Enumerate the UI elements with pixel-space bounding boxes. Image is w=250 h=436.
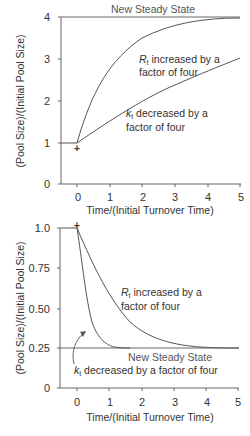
svg-text:0.25: 0.25 (29, 342, 50, 354)
bottom-y-axis-title: (Pool Size)/(Initial Pool Size) (14, 241, 26, 374)
svg-text:1: 1 (44, 137, 50, 149)
svg-text:Rt increased by a: Rt increased by a (121, 286, 202, 299)
top-x-axis-title: Time/(Initial Turnover Time) (86, 204, 213, 216)
svg-text:1: 1 (107, 191, 113, 203)
svg-text:3: 3 (44, 53, 50, 65)
top-y-tick-labels: 4 3 2 1 0 (44, 11, 50, 190)
svg-text:4: 4 (205, 191, 211, 203)
svg-text:1: 1 (107, 396, 113, 408)
bottom-chart-svg: 1.0 0.75 0.50 0.25 0 0 1 2 3 4 5 Time/(I… (0, 218, 250, 436)
top-start-marker: + (74, 143, 80, 154)
top-rt-annotation: Rt increased by a factor of four (139, 53, 220, 78)
top-x-tick-labels: 0 1 2 3 4 5 (75, 191, 244, 203)
top-y-axis-title: (Pool Size)/(Initial Pool Size) (14, 34, 26, 167)
bottom-kt-annotation: kt decreased by a factor of four (74, 364, 218, 377)
bottom-chart: 1.0 0.75 0.50 0.25 0 0 1 2 3 4 5 Time/(I… (0, 218, 250, 436)
svg-text:0: 0 (44, 178, 50, 190)
svg-text:5: 5 (235, 396, 241, 408)
svg-text:2: 2 (44, 95, 50, 107)
svg-text:5: 5 (238, 191, 244, 203)
top-steady-state-label: New Steady State (111, 3, 195, 15)
svg-text:factor of four: factor of four (139, 66, 198, 78)
svg-text:Rt increased by a: Rt increased by a (139, 53, 220, 66)
svg-text:kt decreased by a: kt decreased by a (126, 107, 208, 120)
svg-text:0: 0 (44, 382, 50, 394)
bottom-x-axis-title: Time/(Initial Turnover Time) (86, 411, 213, 423)
svg-text:4: 4 (204, 396, 210, 408)
bottom-y-tick-labels: 1.0 0.75 0.50 0.25 0 (29, 222, 50, 394)
top-kt-annotation: kt decreased by a factor of four (126, 107, 208, 133)
svg-text:3: 3 (172, 396, 178, 408)
svg-text:0.75: 0.75 (29, 262, 50, 274)
svg-text:0: 0 (74, 396, 80, 408)
svg-text:1.0: 1.0 (35, 222, 50, 234)
top-chart: 4 3 2 1 0 0 1 2 3 4 5 Time/(Initial Turn… (0, 0, 250, 218)
svg-text:factor of four: factor of four (126, 121, 185, 133)
svg-text:2: 2 (139, 396, 145, 408)
bottom-x-tick-labels: 0 1 2 3 4 5 (74, 396, 241, 408)
svg-text:3: 3 (172, 191, 178, 203)
top-chart-svg: 4 3 2 1 0 0 1 2 3 4 5 Time/(Initial Turn… (0, 0, 250, 218)
svg-text:4: 4 (44, 11, 50, 23)
svg-text:0.50: 0.50 (29, 303, 50, 315)
svg-text:factor of four: factor of four (121, 300, 180, 312)
svg-text:2: 2 (140, 191, 146, 203)
svg-text:0: 0 (75, 191, 81, 203)
bottom-rt-annotation: Rt increased by a factor of four (121, 286, 202, 312)
svg-text:kt decreased by a factor of fo: kt decreased by a factor of four (74, 364, 218, 377)
bottom-steady-state-label: New Steady State (128, 351, 212, 363)
